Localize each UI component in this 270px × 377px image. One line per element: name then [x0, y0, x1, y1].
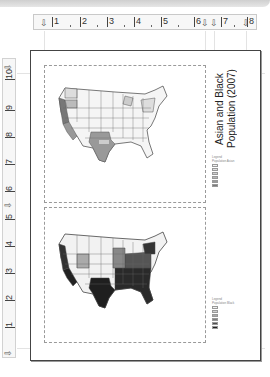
ruler-tick: 7: [221, 17, 228, 27]
legend-swatch: [212, 176, 218, 179]
ruler-tick: 10: [5, 69, 15, 80]
us-map-black: [55, 228, 173, 312]
indent-marker-icon[interactable]: ⇩: [4, 201, 13, 209]
ruler-tick: 2: [80, 17, 87, 27]
legend-swatch: [212, 164, 218, 167]
map-frame-black[interactable]: [44, 207, 206, 343]
ruler-tick: 6: [5, 181, 15, 192]
tab-marker-icon[interactable]: ⇩: [242, 19, 250, 28]
legend-swatch: [212, 184, 218, 187]
ruler-tick: 2: [5, 290, 15, 301]
legend-swatch: [212, 310, 218, 313]
ruler-tick: 7: [5, 154, 15, 165]
tab-marker-icon[interactable]: ⇩: [4, 349, 13, 357]
legend-subheading: Population Asian: [212, 159, 238, 163]
horizontal-ruler[interactable]: 1 2 3 4 5 6 7 8: [33, 14, 257, 30]
map-frame-asian[interactable]: [44, 65, 206, 203]
legend-swatch: [212, 180, 218, 183]
layout-title[interactable]: Asian and Black Population (2007): [214, 68, 242, 150]
ruler-tick: 6: [194, 17, 201, 27]
ruler-tick: 1: [52, 17, 59, 27]
ruler-tick: 3: [5, 263, 15, 274]
ruler-tick: 5: [161, 17, 168, 27]
legend-swatch: [212, 318, 218, 321]
ruler-tick: 3: [107, 17, 114, 27]
legend-swatch: [212, 314, 218, 317]
legend-swatch: [212, 322, 218, 325]
ruler-tick: 4: [134, 17, 141, 27]
tab-marker-icon[interactable]: ⇩: [40, 19, 48, 28]
legend-swatch: [212, 326, 218, 329]
window-top-bar: [0, 0, 270, 7]
ruler-tick: 1: [5, 317, 15, 328]
us-map-asian: [55, 82, 173, 166]
ruler-tick: 4: [5, 236, 15, 247]
ruler-tick: 9: [5, 100, 15, 111]
indent-marker-icon[interactable]: ⇩: [201, 19, 209, 28]
legend-black[interactable]: Legend Population Black: [212, 297, 238, 330]
indent-marker-icon[interactable]: ⇩: [210, 19, 218, 28]
ruler-tick: 8: [5, 127, 15, 138]
legend-subheading: Population Black: [212, 301, 238, 305]
ruler-tick: 5: [5, 209, 15, 220]
legend-asian[interactable]: Legend Population Asian: [212, 155, 238, 188]
legend-swatch: [212, 172, 218, 175]
legend-swatch: [212, 168, 218, 171]
legend-swatch: [212, 306, 218, 309]
tab-marker-icon[interactable]: ⇩: [4, 63, 13, 71]
